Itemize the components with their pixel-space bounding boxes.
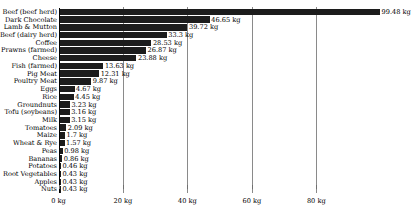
bar (60, 109, 70, 115)
bar (60, 124, 67, 130)
bar (60, 16, 210, 22)
bar (60, 94, 74, 100)
bar-value-label: 0.43 kg (62, 186, 87, 193)
bar (60, 78, 92, 84)
bar (60, 179, 61, 185)
bar (60, 155, 63, 161)
bar (60, 132, 65, 138)
bar (60, 55, 137, 61)
x-tick-mark (123, 185, 124, 189)
x-tick-mark (187, 185, 188, 189)
x-tick-mark (59, 185, 60, 189)
bar (60, 171, 61, 177)
bar (60, 24, 188, 30)
x-tick-label: 0 kg (51, 197, 66, 205)
x-tick-label: 20 kg (114, 197, 133, 205)
bar (60, 70, 100, 76)
bar (60, 186, 61, 192)
x-tick-label: 40 kg (178, 197, 197, 205)
bar (60, 9, 381, 15)
x-tick-label: 60 kg (242, 197, 261, 205)
bar (60, 117, 70, 123)
x-tick-label: 80 kg (307, 197, 326, 205)
category-label: Nuts (41, 186, 57, 193)
bar (60, 148, 63, 154)
bar (60, 140, 65, 146)
bar (60, 32, 167, 38)
category-label-wrap: Nuts (0, 185, 57, 194)
bar-row: Nuts0.43 kg (0, 185, 406, 194)
bar (60, 163, 61, 169)
bar (60, 40, 152, 46)
x-tick-mark (316, 185, 317, 189)
bar (60, 101, 70, 107)
bar (60, 63, 104, 69)
bar (60, 47, 147, 53)
x-tick-mark (252, 185, 253, 189)
bar (60, 86, 75, 92)
